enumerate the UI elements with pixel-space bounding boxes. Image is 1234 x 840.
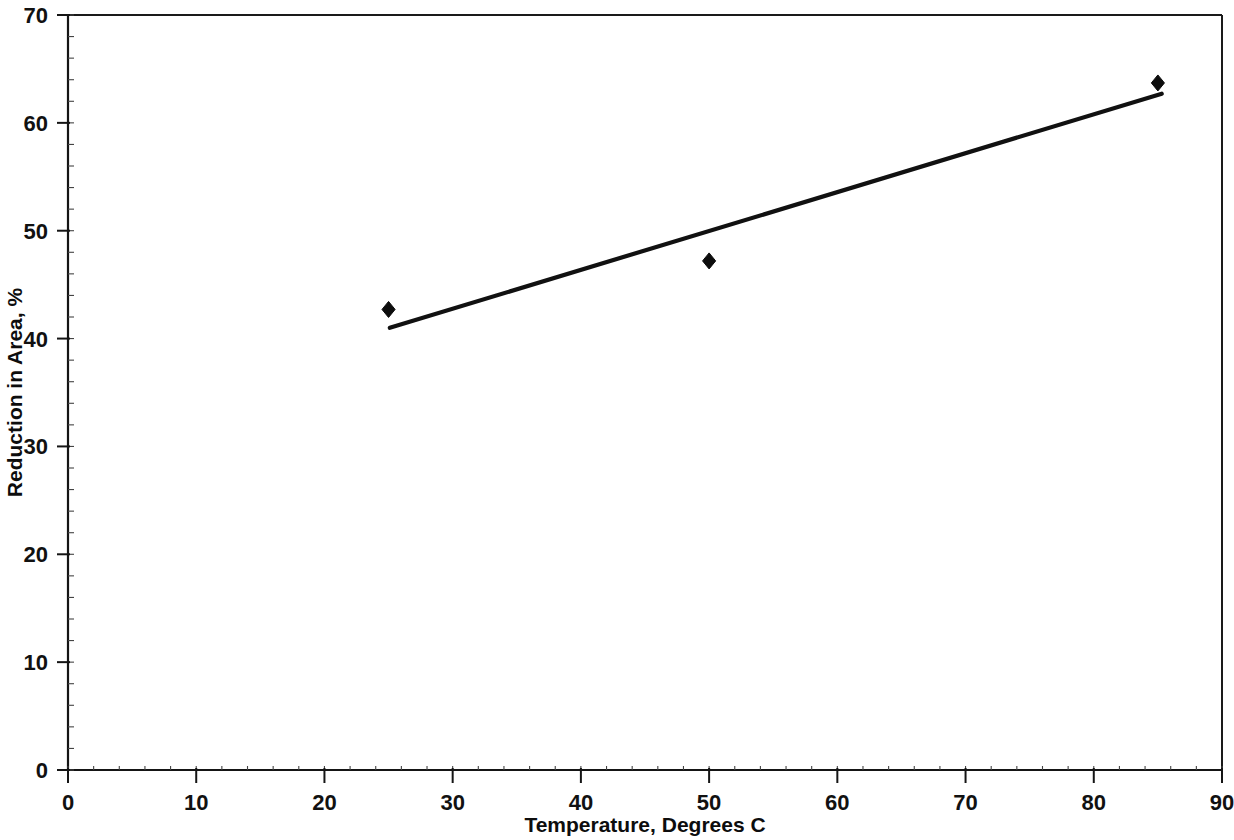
x-tick-label: 30 bbox=[440, 790, 464, 815]
x-tick-label: 90 bbox=[1210, 790, 1234, 815]
data-point-marker bbox=[703, 253, 716, 269]
x-tick-label: 10 bbox=[184, 790, 208, 815]
trend-line-path bbox=[390, 94, 1162, 328]
y-tick-label: 30 bbox=[24, 434, 48, 459]
y-axis-tick-labels: 010203040506070 bbox=[24, 3, 48, 783]
x-tick-label: 20 bbox=[312, 790, 336, 815]
x-tick-label: 0 bbox=[62, 790, 74, 815]
x-axis-tick-labels: 0102030405060708090 bbox=[62, 790, 1234, 815]
x-tick-label: 40 bbox=[569, 790, 593, 815]
x-tick-label: 60 bbox=[825, 790, 849, 815]
y-tick-label: 60 bbox=[24, 111, 48, 136]
scatter-plot-canvas: 010203040506070 0102030405060708090 Redu… bbox=[0, 0, 1234, 840]
x-axis-title: Temperature, Degrees C bbox=[524, 813, 765, 836]
y-tick-label: 10 bbox=[24, 650, 48, 675]
x-tick-label: 50 bbox=[697, 790, 721, 815]
chart-figure: 010203040506070 0102030405060708090 Redu… bbox=[0, 0, 1234, 840]
data-point-marker bbox=[382, 301, 395, 317]
data-point-marker bbox=[1151, 75, 1164, 91]
x-tick-label: 80 bbox=[1082, 790, 1106, 815]
y-tick-label: 20 bbox=[24, 542, 48, 567]
y-tick-label: 0 bbox=[36, 758, 48, 783]
x-tick-label: 70 bbox=[953, 790, 977, 815]
y-tick-label: 70 bbox=[24, 3, 48, 28]
data-point-markers bbox=[382, 75, 1164, 318]
y-tick-label: 50 bbox=[24, 219, 48, 244]
y-axis-title: Reduction in Area, % bbox=[3, 288, 26, 498]
trend-line bbox=[390, 94, 1162, 328]
y-tick-label: 40 bbox=[24, 327, 48, 352]
